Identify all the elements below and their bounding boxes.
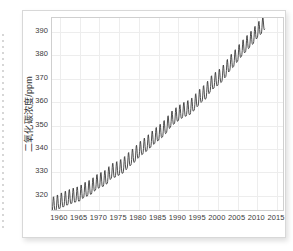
- x-tick-label: 1960: [50, 213, 67, 222]
- plot-frame: [51, 17, 284, 211]
- y-tick-label: 370: [35, 74, 48, 82]
- y-tick-label: 360: [35, 97, 48, 105]
- x-tick-label: 2015: [268, 213, 285, 222]
- x-tick-label: 1975: [110, 213, 127, 222]
- y-axis-tick-labels: 320330340350360370380390: [23, 17, 48, 211]
- y-tick-label: 350: [35, 121, 48, 129]
- co2-keeling-curve-line: [52, 18, 284, 211]
- figure-card: 二氧化碳浓度/ppm 320330340350360370380390 1960…: [22, 10, 286, 238]
- x-tick-label: 1965: [70, 213, 87, 222]
- x-tick-label: 2005: [228, 213, 245, 222]
- y-tick-label: 320: [35, 191, 48, 199]
- x-tick-label: 2000: [208, 213, 225, 222]
- y-tick-label: 390: [35, 27, 48, 35]
- y-tick-label: 380: [35, 50, 48, 58]
- y-tick-label: 330: [35, 167, 48, 175]
- x-axis-tick-labels: 1960196519701975198019851990199520002005…: [51, 213, 284, 225]
- x-tick-label: 1990: [169, 213, 186, 222]
- y-tick-label: 340: [35, 144, 48, 152]
- x-tick-label: 1970: [90, 213, 107, 222]
- co2-concentration-chart: 二氧化碳浓度/ppm 320330340350360370380390 1960…: [23, 11, 287, 239]
- page-edge-artifact: [2, 34, 4, 230]
- co2-data-line: [52, 18, 265, 211]
- x-tick-label: 2010: [248, 213, 265, 222]
- x-tick-label: 1985: [149, 213, 166, 222]
- x-tick-label: 1980: [129, 213, 146, 222]
- x-tick-label: 1995: [189, 213, 206, 222]
